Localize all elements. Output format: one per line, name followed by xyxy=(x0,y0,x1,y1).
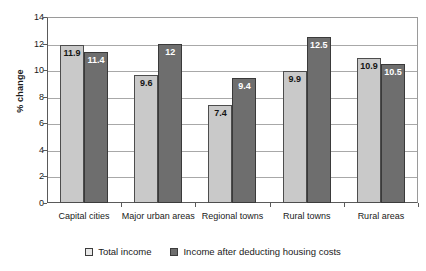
bar-value-label: 9.9 xyxy=(284,74,306,85)
bar-total-income[interactable]: 9.6 xyxy=(134,75,158,203)
bar-group: 7.49.4 xyxy=(195,17,269,203)
x-axis-category-label: Rural towns xyxy=(270,211,344,222)
bar-income-after-housing[interactable]: 12 xyxy=(158,44,182,203)
bar-value-label: 12.5 xyxy=(308,40,330,51)
y-axis-tick-label: 14 xyxy=(4,13,44,22)
x-axis-tick-mark xyxy=(344,203,345,207)
x-axis-category-label: Regional towns xyxy=(195,211,269,222)
legend-swatch-dark xyxy=(170,248,178,256)
bar-chart: % change 02468101214 11.911.49.6127.49.4… xyxy=(0,0,426,271)
bar-group: 11.911.4 xyxy=(47,17,121,203)
y-axis-tick-label: 10 xyxy=(4,66,44,75)
x-axis-category-label: Major urban areas xyxy=(121,211,195,222)
x-axis-tick-mark xyxy=(195,203,196,207)
bar-value-label: 9.6 xyxy=(135,78,157,89)
bar-income-after-housing[interactable]: 12.5 xyxy=(307,37,331,203)
bar-total-income[interactable]: 7.4 xyxy=(208,105,232,203)
bar-group: 9.912.5 xyxy=(270,17,344,203)
bar-income-after-housing[interactable]: 9.4 xyxy=(232,78,256,203)
bar-group: 10.910.5 xyxy=(344,17,418,203)
bar-income-after-housing[interactable]: 10.5 xyxy=(381,64,405,204)
bar-value-label: 7.4 xyxy=(209,108,231,119)
chart-legend: Total incomeIncome after deducting housi… xyxy=(0,246,426,257)
legend-swatch-light xyxy=(85,248,93,256)
y-axis-tick-label: 2 xyxy=(4,172,44,181)
bar-total-income[interactable]: 10.9 xyxy=(357,58,381,203)
x-axis-tick-mark xyxy=(418,203,419,207)
bar-value-label: 10.5 xyxy=(382,67,404,78)
x-axis-tick-mark xyxy=(270,203,271,207)
bar-group: 9.612 xyxy=(121,17,195,203)
legend-item[interactable]: Total income xyxy=(85,246,151,257)
bar-total-income[interactable]: 9.9 xyxy=(283,71,307,203)
legend-label: Total income xyxy=(98,246,151,257)
x-axis-tick-mark xyxy=(121,203,122,207)
y-axis-tick-label: 8 xyxy=(4,93,44,102)
y-axis-tick-label: 0 xyxy=(4,199,44,208)
y-axis-tick-mark xyxy=(43,203,47,204)
y-axis-tick-label: 4 xyxy=(4,146,44,155)
y-axis-tick-label: 6 xyxy=(4,119,44,128)
bars-layer: 11.911.49.6127.49.49.912.510.910.5 xyxy=(47,17,418,203)
y-axis-tick-label: 12 xyxy=(4,40,44,49)
x-axis-category-label: Rural areas xyxy=(344,211,418,222)
bar-total-income[interactable]: 11.9 xyxy=(60,45,84,203)
legend-item[interactable]: Income after deducting housing costs xyxy=(170,246,340,257)
legend-label: Income after deducting housing costs xyxy=(183,246,340,257)
bar-value-label: 9.4 xyxy=(233,81,255,92)
bar-value-label: 10.9 xyxy=(358,61,380,72)
bar-value-label: 11.9 xyxy=(61,48,83,59)
bar-value-label: 12 xyxy=(159,47,181,58)
x-axis-category-label: Capital cities xyxy=(47,211,121,222)
bar-income-after-housing[interactable]: 11.4 xyxy=(84,52,108,203)
bar-value-label: 11.4 xyxy=(85,55,107,66)
